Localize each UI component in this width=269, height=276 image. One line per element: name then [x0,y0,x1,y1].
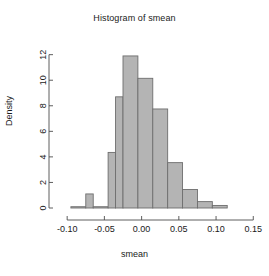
histogram-bar [168,163,183,208]
histogram-bar [197,202,212,208]
plot-canvas: 024681012 -0.10-0.050.000.050.100.15 [0,0,269,276]
y-axis-tick-label: 4 [38,154,48,159]
y-axis-tick-label: 6 [38,129,48,134]
x-axis: -0.10-0.050.000.050.100.15 [57,216,262,234]
histogram-bar [153,109,168,208]
bars-group [71,56,227,208]
x-axis-tick-label: -0.05 [94,224,115,234]
y-axis-tick-label: 12 [38,50,48,60]
histogram-bar [212,205,227,208]
y-axis-tick-label: 0 [38,205,48,210]
x-axis-tick-label: -0.10 [57,224,78,234]
x-axis-tick-label: 0.10 [207,224,225,234]
histogram-bar [71,207,86,208]
x-axis-tick-label: 0.05 [170,224,188,234]
histogram-bar [123,56,138,208]
histogram-bar [116,97,123,208]
x-axis-tick-label: 0.00 [133,224,151,234]
histogram-bar [138,78,153,208]
histogram-bar [86,194,93,208]
y-axis-tick-label: 10 [38,75,48,85]
histogram-bar [93,207,108,208]
y-axis: 024681012 [38,50,53,211]
histogram-plot: Histogram of smean Density smean 0246810… [0,0,269,276]
y-axis-tick-label: 2 [38,180,48,185]
y-axis-tick-label: 8 [38,103,48,108]
histogram-bar [183,189,198,208]
histogram-bar [108,152,115,208]
x-axis-tick-label: 0.15 [245,224,263,234]
